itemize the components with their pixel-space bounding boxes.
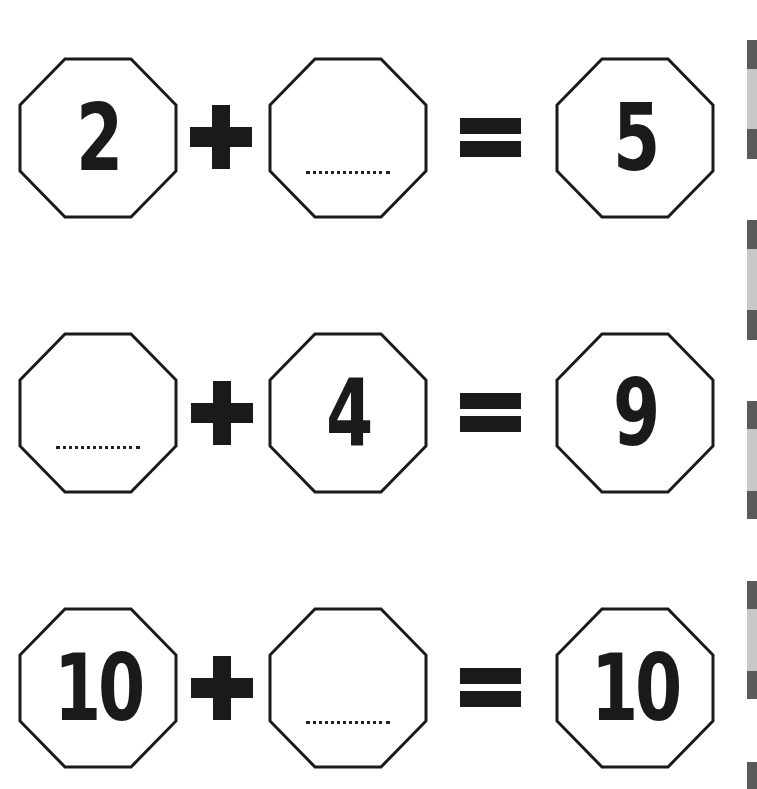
strip-segment-dark: [747, 129, 757, 159]
strip-segment-dark: [747, 671, 757, 699]
strip-segment-dark: [747, 310, 757, 340]
strip-segment-light: [747, 609, 757, 671]
plus-sign-icon: [190, 105, 252, 169]
strip-segment-light: [747, 249, 757, 310]
plus-sign-icon: [191, 381, 253, 445]
equals-sign-icon: [460, 393, 521, 432]
equals-sign-icon: [460, 668, 521, 707]
answer-box-addend-2-row-3[interactable]: [268, 607, 428, 769]
strip-segment-dark: [747, 40, 757, 69]
number-box-addend-2-row-2: 4: [268, 332, 428, 494]
number-box-sum-row-3: 10: [555, 607, 715, 769]
number-box-sum-row-1: 5: [555, 57, 715, 219]
sum-value: 5: [569, 57, 700, 219]
dotted-answer-line[interactable]: [306, 171, 390, 174]
number-box-addend-1-row-1: 2: [18, 57, 178, 219]
octagon-shape-icon: [268, 607, 428, 769]
strip-segment-dark: [747, 401, 757, 429]
addend-2-value: 4: [282, 332, 413, 494]
addend-1-value: 2: [32, 57, 163, 219]
answer-box-addend-1-row-2[interactable]: [18, 332, 178, 494]
octagon-shape-icon: [268, 57, 428, 219]
equals-sign-icon: [460, 118, 521, 157]
octagon-shape-icon: [18, 332, 178, 494]
number-box-addend-1-row-3: 10: [18, 607, 178, 769]
plus-sign-icon: [191, 656, 253, 720]
strip-segment-dark: [747, 491, 757, 519]
strip-segment-light: [747, 429, 757, 491]
strip-segment-dark: [747, 762, 757, 789]
edge-strip-decoration: [747, 0, 757, 789]
number-box-sum-row-2: 9: [555, 332, 715, 494]
strip-segment-dark: [747, 581, 757, 609]
sum-value: 10: [569, 607, 700, 769]
strip-segment-light: [747, 69, 757, 129]
dotted-answer-line[interactable]: [306, 721, 390, 724]
dotted-answer-line[interactable]: [56, 446, 140, 449]
sum-value: 9: [569, 332, 700, 494]
strip-segment-dark: [747, 220, 757, 249]
addend-1-value: 10: [32, 607, 163, 769]
answer-box-addend-2-row-1[interactable]: [268, 57, 428, 219]
